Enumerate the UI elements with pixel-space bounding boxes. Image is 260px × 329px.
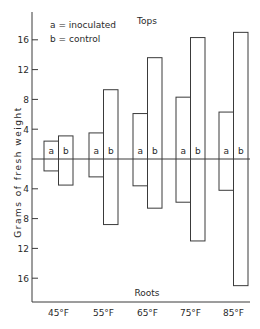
- bar-letter: a: [223, 146, 229, 156]
- bar-letter: b: [108, 146, 114, 156]
- bar-letter: b: [238, 146, 244, 156]
- y-tick-label: 16: [18, 274, 30, 284]
- labels: a = inoculated b = control Tops Roots Gr…: [13, 16, 160, 298]
- y-axis-label: Grams of fresh weight: [13, 106, 23, 237]
- bar-letter: a: [137, 146, 143, 156]
- y-tick-label: 12: [18, 244, 29, 254]
- x-tick-label: 85°F: [223, 308, 244, 318]
- legend-inoculated: a = inoculated: [50, 20, 116, 30]
- bar-b: [191, 38, 206, 241]
- bar-letter: b: [152, 146, 158, 156]
- bar-b: [148, 58, 163, 208]
- y-tick-label: 12: [18, 65, 29, 75]
- bar-letter: b: [63, 146, 69, 156]
- y-tick-label: 16: [18, 35, 30, 45]
- y-tick-label: 4: [23, 184, 29, 194]
- bar-letter: a: [180, 146, 186, 156]
- roots-label: Roots: [134, 288, 159, 298]
- y-tick-label: 4: [23, 125, 29, 135]
- bar-letter: a: [48, 146, 54, 156]
- axes: 48121648121645°F55°F65°F75°F85°F: [18, 12, 250, 318]
- x-tick-label: 45°F: [48, 308, 69, 318]
- x-tick-label: 55°F: [93, 308, 114, 318]
- chart: 48121648121645°F55°F65°F75°F85°F abababa…: [0, 0, 260, 329]
- bar-letter: a: [93, 146, 99, 156]
- y-tick-label: 8: [23, 214, 29, 224]
- legend-control: b = control: [50, 34, 100, 44]
- bar-b: [104, 90, 119, 225]
- bar-letter: b: [195, 146, 201, 156]
- bar-b: [59, 136, 74, 185]
- x-tick-label: 75°F: [180, 308, 201, 318]
- x-tick-label: 65°F: [137, 308, 158, 318]
- tops-label: Tops: [136, 16, 157, 26]
- y-tick-label: 8: [23, 95, 29, 105]
